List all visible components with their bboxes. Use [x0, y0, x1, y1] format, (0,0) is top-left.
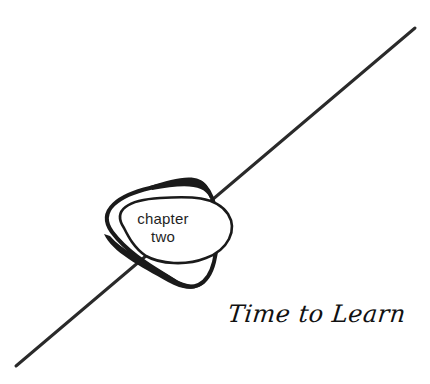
chapter-word: chapter: [118, 210, 208, 228]
chapter-number: two: [118, 228, 208, 246]
outer-loop-top-swoosh: [150, 178, 211, 198]
chapter-label: chapter two: [118, 210, 208, 246]
chapter-opener: chapter two Time to Learn: [0, 0, 430, 384]
chapter-title: Time to Learn: [227, 300, 408, 328]
